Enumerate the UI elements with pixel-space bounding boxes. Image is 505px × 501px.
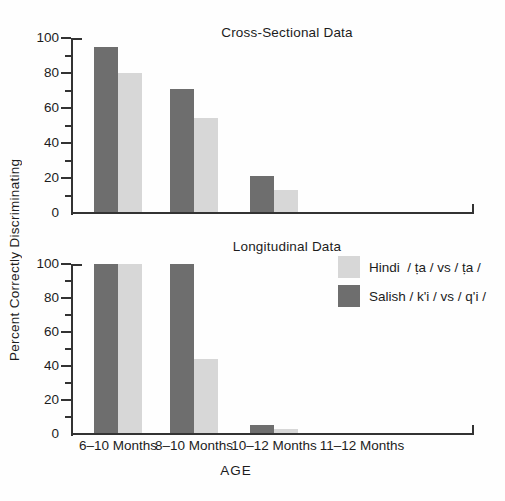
y-tick-label: 100 xyxy=(23,256,59,272)
bar-salish xyxy=(170,264,194,434)
y-tick-major xyxy=(61,399,71,401)
y-tick-major xyxy=(61,37,71,39)
y-tick-major xyxy=(61,107,71,109)
y-tick-minor xyxy=(65,280,71,282)
bar-hindi xyxy=(118,264,142,434)
bar-hindi xyxy=(194,118,218,213)
legend-label-salish: Salish / k'i / vs / q'i / xyxy=(369,289,486,304)
y-tick-label: 100 xyxy=(23,30,59,46)
legend-item-salish: Salish / k'i / vs / q'i / xyxy=(338,285,486,307)
y-tick-major xyxy=(61,142,71,144)
y-tick-label: 60 xyxy=(23,324,59,340)
salish-color-swatch xyxy=(338,285,360,307)
y-tick-major xyxy=(61,365,71,367)
y-tick-label: 40 xyxy=(23,358,59,374)
bar-hindi xyxy=(274,190,298,213)
y-tick-major xyxy=(61,297,71,299)
x-category-label: 11–12 Months xyxy=(312,439,412,453)
y-tick-major xyxy=(61,177,71,179)
y-axis xyxy=(71,38,73,215)
y-tick-minor xyxy=(65,90,71,92)
y-tick-minor xyxy=(65,382,71,384)
y-tick-label: 40 xyxy=(23,135,59,151)
y-tick-label: 60 xyxy=(23,100,59,116)
y-axis xyxy=(71,264,73,436)
y-tick-minor xyxy=(65,55,71,57)
y-tick-major xyxy=(61,331,71,333)
y-tick-label: 80 xyxy=(23,65,59,81)
y-axis-cap xyxy=(71,264,82,266)
x-axis-cap xyxy=(472,425,474,434)
y-tick-minor xyxy=(65,416,71,418)
legend: Hindi / ṭa / vs / ṭa / Salish / k'i / vs… xyxy=(338,256,486,314)
x-axis xyxy=(71,433,474,435)
y-tick-label: 20 xyxy=(23,392,59,408)
x-axis xyxy=(71,212,474,214)
hindi-color-swatch xyxy=(338,256,360,278)
legend-label-hindi: Hindi / ṭa / vs / ṭa / xyxy=(369,260,481,275)
bar-salish xyxy=(94,264,118,434)
bar-salish xyxy=(170,89,194,213)
x-axis-title: AGE xyxy=(196,463,276,478)
y-tick-major xyxy=(61,72,71,74)
chart-title-longitudinal: Longitudinal Data xyxy=(167,239,407,254)
bar-hindi xyxy=(194,359,218,434)
y-tick-minor xyxy=(65,195,71,197)
y-tick-minor xyxy=(65,348,71,350)
bar-hindi xyxy=(118,73,142,213)
bar-salish xyxy=(250,176,274,213)
y-tick-minor xyxy=(65,125,71,127)
y-tick-label: 80 xyxy=(23,290,59,306)
y-tick-major xyxy=(61,263,71,265)
x-category-label: 10–12 Months xyxy=(224,439,324,453)
legend-item-hindi: Hindi / ṭa / vs / ṭa / xyxy=(338,256,486,278)
y-tick-minor xyxy=(65,314,71,316)
chart-title-cross-sectional: Cross-Sectional Data xyxy=(167,25,407,40)
y-tick-minor xyxy=(65,160,71,162)
figure: Percent Correctly Discriminating Cross-S… xyxy=(0,0,505,501)
bar-salish xyxy=(94,47,118,213)
y-tick-label: 20 xyxy=(23,170,59,186)
x-axis-cap xyxy=(472,204,474,213)
y-tick-label: 0 xyxy=(23,205,59,221)
y-tick-label: 0 xyxy=(23,426,59,442)
y-axis-cap xyxy=(71,38,82,40)
